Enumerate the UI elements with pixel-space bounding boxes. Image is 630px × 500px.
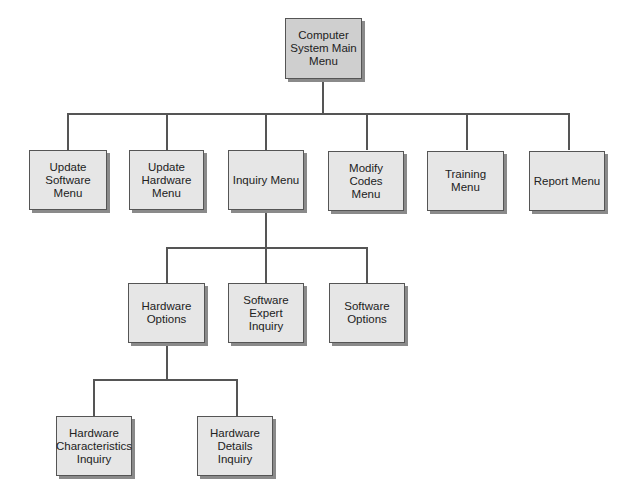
node-software-options: Software Options [329,283,405,343]
node-update-hardware-menu: Update Hardware Menu [129,150,204,210]
connector [67,113,570,115]
node-update-software-menu: Update Software Menu [29,150,107,210]
node-inquiry-menu: Inquiry Menu [228,150,304,210]
connector [322,79,324,114]
node-hardware-details-inquiry: Hardware Details Inquiry [197,416,273,476]
connector [93,379,238,381]
connector [265,113,267,150]
connector [93,379,95,416]
connector [67,113,69,150]
connector [166,247,168,283]
node-computer-system-main-menu: Computer System Main Menu [285,18,362,79]
connector [366,247,368,283]
connector [265,247,267,283]
node-report-menu: Report Menu [529,151,605,211]
connector [366,113,368,150]
node-software-expert-inquiry: Software Expert Inquiry [228,283,304,343]
connector [568,113,570,150]
connector [236,379,238,416]
node-modify-codes-menu: Modify Codes Menu [328,151,404,211]
node-hardware-characteristics-inquiry: Hardware Characteristics Inquiry [56,416,132,476]
connector [166,247,368,249]
connector [166,113,168,150]
node-training-menu: Training Menu [427,151,504,211]
connector [166,343,168,380]
node-hardware-options: Hardware Options [128,283,205,343]
connector [265,210,267,248]
connector [466,113,468,150]
